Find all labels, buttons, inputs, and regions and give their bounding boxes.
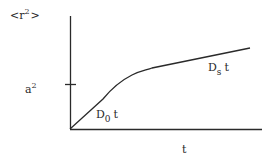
y-axis-label: <r2> [10,7,40,22]
x-axis-label: t [182,143,187,156]
curve-label-final: Dst [208,61,229,77]
diagram-canvas: <r2> a2 D0t Dst t [0,0,269,158]
curve-label-initial: D0t [96,108,119,124]
tick-label-a2: a2 [25,81,37,96]
